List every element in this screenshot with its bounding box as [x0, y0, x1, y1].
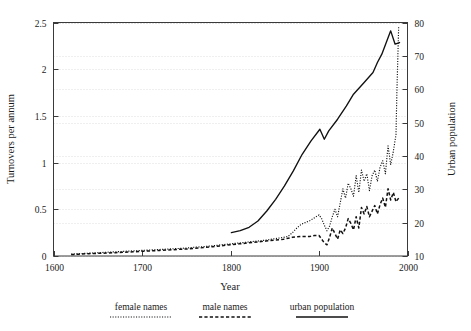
right-tick-label: 20 [415, 219, 425, 229]
x-tick-label: 1600 [45, 263, 64, 273]
right-tick-label: 40 [415, 152, 425, 162]
left-tick-label: 2.5 [35, 19, 47, 29]
x-axis-label: Year [220, 281, 240, 292]
y-axis-label-left: Turnovers per annum [5, 94, 16, 184]
chart-figure: 00.511.522.5 1020304050607080 1600170018… [0, 0, 471, 331]
x-tick-label: 2000 [399, 263, 418, 273]
line-chart: 00.511.522.5 1020304050607080 1600170018… [0, 0, 471, 331]
right-tick-label: 60 [415, 85, 425, 95]
left-tick-label: 0 [42, 252, 47, 262]
legend-label-female-names: female names [115, 302, 168, 312]
right-tick-label: 70 [415, 52, 425, 62]
y-axis-label-right: Urban population [446, 101, 457, 176]
legend-label-male-names: male names [202, 302, 247, 312]
x-tick-label: 1800 [222, 263, 241, 273]
left-tick-label: 0.5 [35, 205, 47, 215]
left-tick-label: 1 [42, 159, 47, 169]
legend-label-urban-population: urban population [290, 302, 355, 312]
left-tick-label: 1.5 [35, 112, 47, 122]
right-tick-label: 10 [415, 252, 425, 262]
x-tick-label: 1700 [133, 263, 152, 273]
right-tick-label: 80 [415, 19, 425, 29]
right-tick-label: 30 [415, 185, 425, 195]
x-tick-label: 1900 [310, 263, 329, 273]
left-tick-label: 2 [42, 65, 47, 75]
right-tick-label: 50 [415, 119, 425, 129]
